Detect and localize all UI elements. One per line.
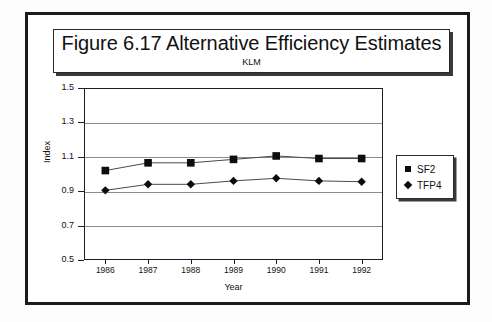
diamond-marker-icon [229, 177, 237, 185]
diamond-marker-icon [272, 174, 280, 182]
x-axis-tick-label: 1992 [340, 266, 384, 275]
diamond-marker-icon [144, 180, 152, 188]
x-axis-tick-label: 1989 [212, 266, 256, 275]
square-marker-icon [402, 166, 414, 172]
x-axis-tick-mark [319, 260, 320, 264]
diamond-marker-icon [315, 177, 323, 185]
y-axis-tick-label: 0.9 [40, 186, 74, 195]
x-axis-tick-mark [148, 260, 149, 264]
diamond-marker-icon [187, 180, 195, 188]
square-marker-icon [102, 167, 110, 175]
legend-item-label: TFP4 [417, 180, 441, 191]
legend-item-label: SF2 [417, 164, 435, 175]
x-axis-tick-label: 1986 [83, 266, 127, 275]
square-marker-icon-glyph [405, 166, 411, 172]
legend-item[interactable]: TFP4 [402, 177, 453, 193]
y-axis-tick-mark [78, 260, 84, 261]
square-marker-icon [230, 156, 238, 164]
x-axis-tick-mark [234, 260, 235, 264]
figure-title-box: Figure 6.17 Alternative Efficiency Estim… [53, 29, 450, 73]
x-axis-tick-mark [105, 260, 106, 264]
square-marker-icon [315, 155, 323, 163]
y-axis-tick-label: 0.7 [40, 221, 74, 230]
diamond-marker-icon [357, 178, 365, 186]
y-axis-tick-label: 0.5 [40, 255, 74, 264]
y-axis-tick-label: 1.3 [40, 117, 74, 126]
y-axis-title: Index [42, 151, 52, 163]
square-marker-icon [358, 155, 366, 163]
x-axis-tick-label: 1991 [297, 266, 341, 275]
legend: SF2TFP4 [396, 155, 454, 199]
x-axis-tick-label: 1990 [254, 266, 298, 275]
diamond-marker-icon [402, 182, 414, 188]
x-axis-title: Year [84, 282, 383, 292]
square-marker-icon [187, 159, 195, 167]
x-axis-tick-label: 1987 [126, 266, 170, 275]
diamond-marker-icon [101, 186, 109, 194]
figure-title: Figure 6.17 Alternative Efficiency Estim… [54, 31, 449, 56]
legend-item[interactable]: SF2 [402, 161, 453, 177]
series-plot [84, 88, 383, 260]
square-marker-icon [144, 159, 152, 167]
x-axis-tick-mark [362, 260, 363, 264]
diamond-marker-icon-glyph [404, 181, 412, 189]
figure-root: Figure 6.17 Alternative Efficiency Estim… [0, 0, 492, 322]
x-axis-tick-mark [191, 260, 192, 264]
x-axis-tick-mark [276, 260, 277, 264]
square-marker-icon [272, 152, 280, 160]
figure-subtitle: KLM [54, 57, 449, 68]
x-axis-tick-label: 1988 [169, 266, 213, 275]
y-axis-tick-label: 1.5 [40, 83, 74, 92]
